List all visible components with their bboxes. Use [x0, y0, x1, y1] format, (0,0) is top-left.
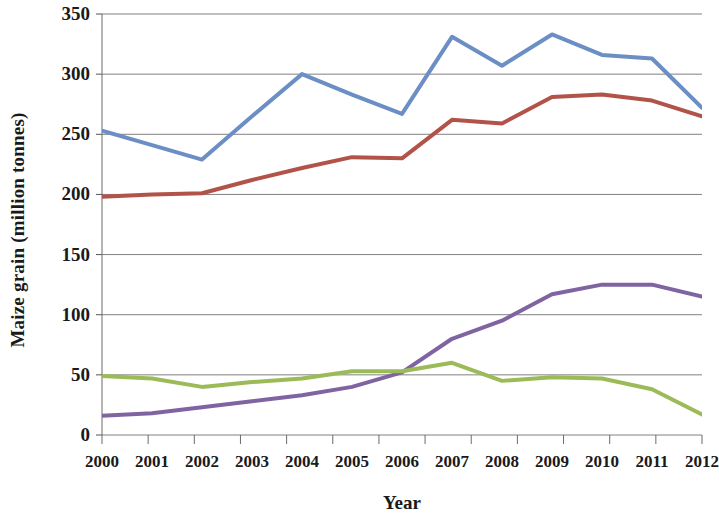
y-tick-label: 200: [62, 183, 91, 205]
x-tick-label: 2005: [335, 452, 369, 472]
x-tick-label: 2004: [285, 452, 319, 472]
y-tick-label: 350: [62, 3, 91, 25]
y-tick-label: 250: [62, 123, 91, 145]
line-series-purple: [102, 285, 702, 416]
x-tick-label: 2001: [135, 452, 169, 472]
y-tick-label: 50: [71, 364, 90, 386]
x-tick-label: 2006: [385, 452, 419, 472]
x-tick-label: 2011: [635, 452, 668, 472]
y-axis-tick-labels: 050100150200250300350: [36, 0, 98, 460]
y-axis-title: Maize grain (million tonnes): [0, 0, 36, 460]
plot-area: [102, 14, 702, 435]
x-tick-label: 2007: [435, 452, 469, 472]
y-tick-label: 300: [62, 63, 91, 85]
y-tick-label: 150: [62, 244, 91, 266]
y-tick-label: 100: [62, 304, 91, 326]
x-tick-label: 2000: [85, 452, 119, 472]
y-tick-label: 0: [81, 424, 91, 446]
x-tick-label: 2002: [185, 452, 219, 472]
x-tick-label: 2003: [235, 452, 269, 472]
x-tick-label: 2008: [485, 452, 519, 472]
x-axis-title: Year: [102, 492, 702, 514]
plot-lines: [102, 14, 702, 435]
x-tick-label: 2012: [685, 452, 719, 472]
x-tick-label: 2010: [585, 452, 619, 472]
line-series-red: [102, 95, 702, 197]
x-axis-tick-labels: 2000200120022003200420052006200720082009…: [102, 452, 702, 480]
y-axis-title-text: Maize grain (million tonnes): [7, 112, 29, 347]
x-tick-label: 2009: [535, 452, 569, 472]
